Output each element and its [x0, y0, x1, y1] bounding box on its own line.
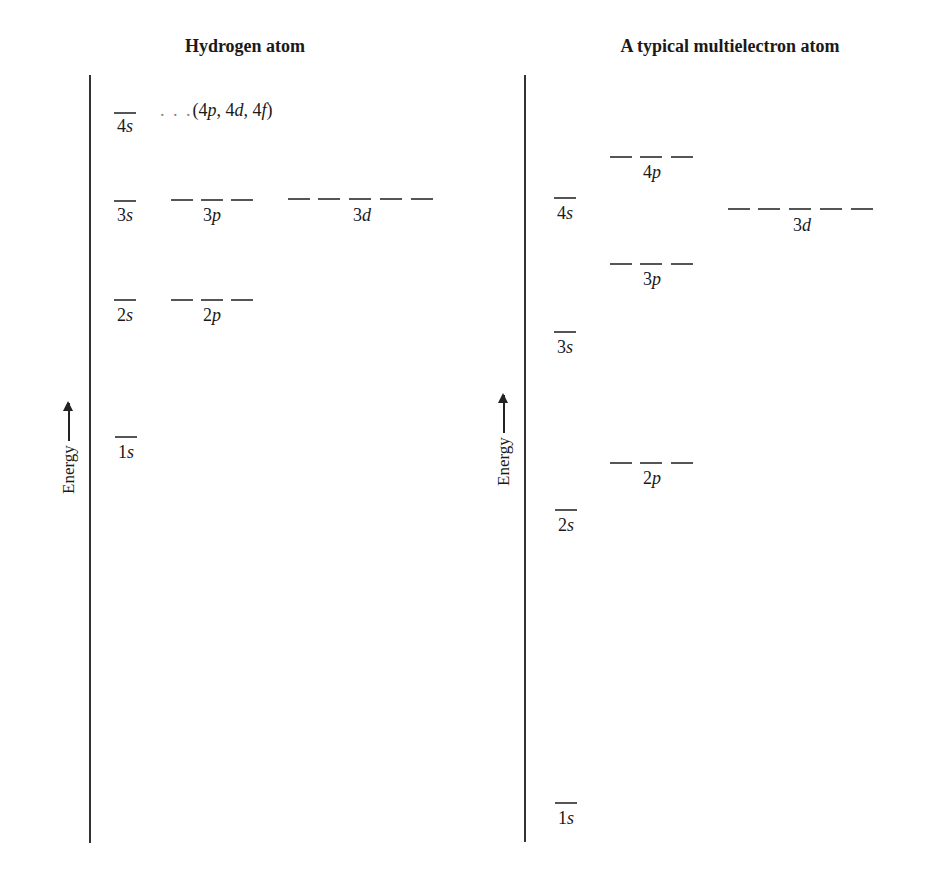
orbital-2p-1: [171, 299, 193, 301]
orbital-3d-2: [758, 208, 780, 210]
label-3d: 3d: [353, 205, 371, 226]
multielectron-title: A typical multielectron atom: [620, 36, 839, 57]
orbital-3d-5: [411, 198, 433, 200]
label-1s: 1s: [558, 808, 574, 829]
energy-text: Energy: [494, 437, 514, 486]
orbital-4p-2: [640, 156, 662, 158]
orbital-2p-3: [231, 299, 253, 301]
orbital-3d-1: [728, 208, 750, 210]
orbital-3d-4: [380, 198, 402, 200]
orbital-3p-3: [671, 263, 693, 265]
hydrogen-energy-label: Energy: [58, 384, 80, 494]
orbital-3d-1: [288, 198, 310, 200]
multielectron-energy-label: Energy: [493, 376, 515, 486]
orbital-4s: [114, 112, 136, 114]
orbital-1s: [555, 802, 577, 804]
label-2s: 2s: [117, 305, 133, 326]
orbital-2p-2: [201, 299, 223, 301]
label-4p: 4p: [643, 162, 661, 183]
orbital-2p-3: [671, 462, 693, 464]
orbital-4p-1: [610, 156, 632, 158]
label-4s: 4s: [557, 203, 573, 224]
orbital-2s: [555, 509, 577, 511]
orbital-3p-2: [640, 263, 662, 265]
label-3s: 3s: [117, 205, 133, 226]
multielectron-energy-axis: [524, 75, 526, 842]
orbital-2p-2: [640, 462, 662, 464]
label-2s: 2s: [558, 515, 574, 536]
orbital-3d-3: [789, 208, 811, 210]
label-3p: 3p: [643, 269, 661, 290]
orbital-1s: [115, 436, 137, 438]
hydrogen-energy-axis: [89, 75, 91, 843]
orbital-3s: [114, 200, 136, 202]
orbital-3p-3: [231, 199, 253, 201]
up-arrow-icon: [503, 395, 505, 433]
orbital-2p-1: [610, 462, 632, 464]
orbital-3d-2: [318, 198, 340, 200]
orbital-3d-5: [851, 208, 873, 210]
orbital-3d-4: [820, 208, 842, 210]
label-1s: 1s: [118, 442, 134, 463]
orbital-3p-2: [201, 199, 223, 201]
label-3s: 3s: [557, 337, 573, 358]
orbital-3d-3: [349, 198, 371, 200]
label-4s: 4s: [117, 116, 133, 137]
orbital-3p-1: [610, 263, 632, 265]
up-arrow-icon: [68, 403, 70, 441]
orbital-3p-1: [171, 199, 193, 201]
orbital-4p-3: [671, 156, 693, 158]
orbital-2s: [114, 299, 136, 301]
higher-orbitals-note: . . .(4p, 4d, 4f): [160, 100, 273, 121]
label-2p: 2p: [643, 468, 661, 489]
hydrogen-title: Hydrogen atom: [185, 36, 305, 57]
label-3p: 3p: [203, 205, 221, 226]
orbital-4s: [554, 197, 576, 199]
label-3d: 3d: [793, 215, 811, 236]
energy-text: Energy: [59, 445, 79, 494]
label-2p: 2p: [203, 305, 221, 326]
orbital-3s: [554, 331, 576, 333]
